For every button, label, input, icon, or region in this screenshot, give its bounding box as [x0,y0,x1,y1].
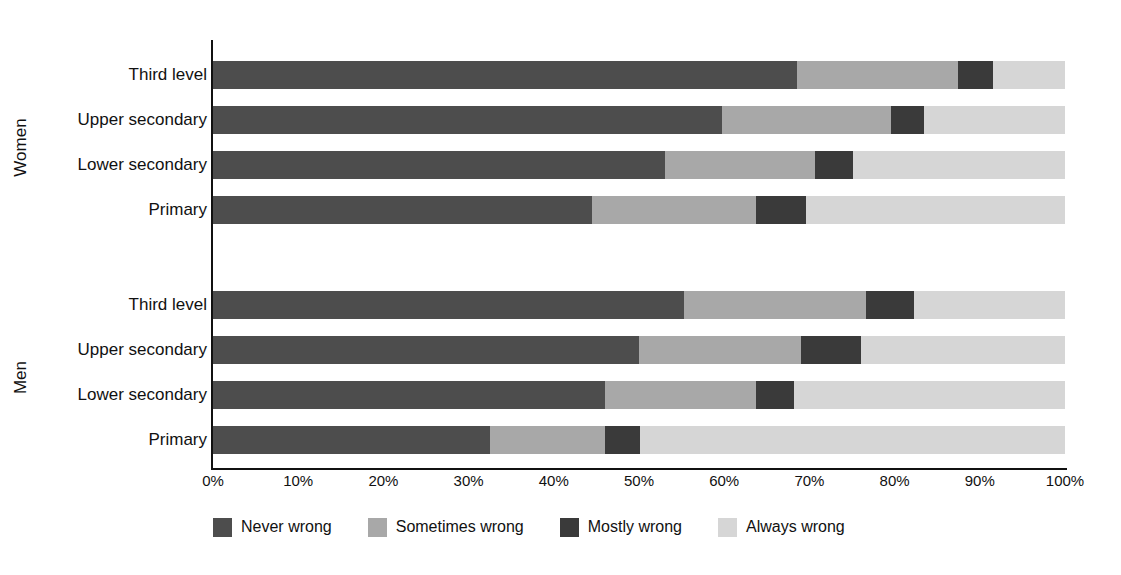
legend-label: Never wrong [241,518,332,536]
bar-row [213,336,1065,364]
bar-segment [592,196,756,224]
category-label: Upper secondary [32,341,207,358]
bar-segment [993,61,1065,89]
legend-swatch-icon [368,518,387,537]
x-tick-label: 80% [880,472,910,489]
bar-row [213,196,1065,224]
bar-segment [958,61,993,89]
bar-segment [605,426,640,454]
bar-segment [861,336,1065,364]
x-axis-line [211,468,1067,470]
legend-item[interactable]: Sometimes wrong [368,518,524,537]
bar-segment [213,151,665,179]
category-label: Upper secondary [32,111,207,128]
gridline [1065,40,1066,468]
bar-segment [213,336,639,364]
bar-segment [891,106,923,134]
category-label: Third level [32,296,207,313]
bar-row [213,61,1065,89]
legend-item[interactable]: Never wrong [213,518,332,537]
bar-segment [914,291,1065,319]
bar-segment [213,106,722,134]
x-tick-label: 30% [454,472,484,489]
bar-segment [794,381,1065,409]
bar-segment [756,196,806,224]
bar-segment [806,196,1065,224]
bar-segment [853,151,1065,179]
bar-segment [815,151,852,179]
category-label: Third level [32,66,207,83]
x-tick-label: 20% [368,472,398,489]
category-label-column: Third levelUpper secondaryLower secondar… [25,0,207,575]
bar-row [213,426,1065,454]
x-tick-label: 40% [539,472,569,489]
x-tick-label: 70% [794,472,824,489]
stacked-bar-chart: Women Men Third levelUpper secondaryLowe… [0,0,1121,575]
bar-segment [797,61,958,89]
bar-segment [722,106,891,134]
bar-segment [213,61,797,89]
bar-segment [684,291,865,319]
category-label: Lower secondary [32,386,207,403]
bar-segment [639,336,801,364]
bar-segment [213,426,490,454]
plot-area: 0%10%20%30%40%50%60%70%80%90%100% [213,40,1065,468]
category-label: Lower secondary [32,156,207,173]
bar-segment [490,426,605,454]
legend-label: Sometimes wrong [396,518,524,536]
x-tick-label: 90% [965,472,995,489]
category-label: Primary [32,431,207,448]
bar-segment [605,381,756,409]
bar-row [213,151,1065,179]
bar-segment [866,291,915,319]
x-tick-label: 0% [202,472,224,489]
x-tick-label: 10% [283,472,313,489]
bar-segment [801,336,861,364]
x-tick-label: 100% [1046,472,1084,489]
bar-segment [665,151,816,179]
bar-segment [640,426,1065,454]
legend-item[interactable]: Always wrong [718,518,845,537]
chart-legend: Never wrongSometimes wrongMostly wrongAl… [213,512,1065,542]
bar-row [213,291,1065,319]
legend-swatch-icon [560,518,579,537]
bar-segment [213,381,605,409]
bar-segment [213,196,592,224]
x-tick-label: 60% [709,472,739,489]
legend-label: Always wrong [746,518,845,536]
bar-segment [924,106,1065,134]
legend-swatch-icon [718,518,737,537]
bar-segment [213,291,684,319]
bar-row [213,106,1065,134]
category-label: Primary [32,201,207,218]
legend-label: Mostly wrong [588,518,682,536]
x-tick-label: 50% [624,472,654,489]
legend-swatch-icon [213,518,232,537]
bar-row [213,381,1065,409]
legend-item[interactable]: Mostly wrong [560,518,682,537]
bar-segment [756,381,794,409]
